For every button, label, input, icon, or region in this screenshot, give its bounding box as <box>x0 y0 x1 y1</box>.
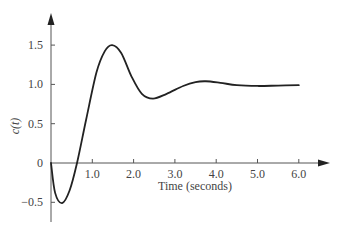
y-ticks: −0.500.51.01.5 <box>21 38 55 209</box>
x-tick-label: 6.0 <box>291 167 306 181</box>
x-tick-label: 1.0 <box>85 167 100 181</box>
y-tick-label: 0.5 <box>28 117 43 131</box>
y-axis-arrow-icon <box>48 13 55 25</box>
y-axis-label: c(t) <box>8 118 22 135</box>
y-tick-label: 0 <box>37 156 43 170</box>
x-tick-label: 2.0 <box>126 167 141 181</box>
x-ticks: 1.02.03.04.05.06.0 <box>85 159 306 181</box>
x-axis-arrow-icon <box>318 160 330 167</box>
y-tick-label: 1.0 <box>28 77 43 91</box>
x-axis-label: Time (seconds) <box>158 179 232 193</box>
y-tick-label: 1.5 <box>28 38 43 52</box>
y-tick-label: −0.5 <box>21 195 43 209</box>
step-response-chart: 1.02.03.04.05.06.0 −0.500.51.01.5 Time (… <box>0 0 345 233</box>
x-tick-label: 5.0 <box>250 167 265 181</box>
